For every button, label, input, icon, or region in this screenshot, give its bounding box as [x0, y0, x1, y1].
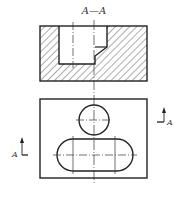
technical-drawing: A—A A A: [0, 0, 181, 197]
section-title: A—A: [81, 5, 106, 16]
section-marker-left: A: [11, 137, 28, 159]
top-view: [40, 99, 147, 178]
marker-label-left: A: [11, 150, 18, 159]
section-view: [40, 22, 147, 81]
section-hatched-body: [40, 26, 147, 81]
marker-label-right: A: [166, 118, 173, 127]
arrow-up-icon: [162, 107, 166, 113]
section-marker-right: A: [157, 107, 173, 127]
arrow-up-icon: [20, 137, 24, 143]
